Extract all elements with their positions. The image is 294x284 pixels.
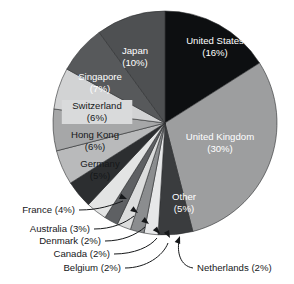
leader-line-canada bbox=[114, 238, 157, 254]
callout-label-france: France (4%) bbox=[22, 204, 75, 215]
slice-label-hong-kong-value: (6%) bbox=[85, 141, 105, 152]
slice-label-switzerland-value: (6%) bbox=[87, 112, 107, 123]
callout-label-australia: Australia (3%) bbox=[30, 223, 90, 234]
slice-label-switzerland-name: Switzerland bbox=[72, 100, 122, 111]
callout-label-denmark: Denmark (2%) bbox=[39, 235, 101, 246]
callout-label-belgium: Belgium (2%) bbox=[63, 262, 121, 273]
slice-label-other-name: Other bbox=[172, 191, 197, 202]
leader-line-netherlands bbox=[178, 241, 193, 268]
slice-label-other-value: (5%) bbox=[174, 203, 194, 214]
slice-label-hong-kong-name: Hong Kong bbox=[71, 129, 119, 140]
slice-label-singapore-name: Singapore bbox=[78, 71, 122, 82]
slice-label-united-kingdom-value: (30%) bbox=[207, 143, 233, 154]
pie-chart-figure: United States(16%)United Kingdom(30%)Oth… bbox=[0, 0, 294, 284]
slice-label-germany-value: (5%) bbox=[90, 170, 110, 181]
slice-label-japan-value: (10%) bbox=[122, 57, 148, 68]
slice-label-japan-name: Japan bbox=[122, 45, 148, 56]
slice-label-germany-name: Germany bbox=[80, 158, 120, 169]
slice-label-united-states-name: United States bbox=[186, 35, 244, 46]
callout-label-netherlands: Netherlands (2%) bbox=[197, 262, 272, 273]
leader-arrowhead-netherlands bbox=[175, 236, 180, 244]
slice-label-singapore-value: (7%) bbox=[90, 83, 110, 94]
callout-label-canada: Canada (2%) bbox=[53, 248, 110, 259]
slice-label-united-states-value: (16%) bbox=[202, 47, 228, 58]
slice-label-united-kingdom-name: United Kingdom bbox=[186, 131, 254, 142]
